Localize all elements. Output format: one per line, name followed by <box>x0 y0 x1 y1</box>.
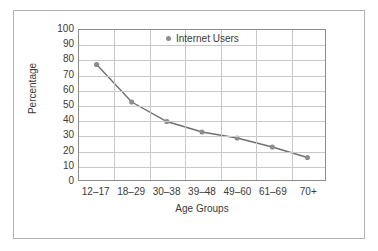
line-chart: 0102030405060708090100 12–1718–2930–3839… <box>14 11 366 240</box>
series-line <box>97 65 308 158</box>
chart-legend: Internet Users <box>166 33 239 44</box>
gridline-horizontal <box>79 121 325 122</box>
data-point-marker <box>199 129 204 134</box>
x-axis-tick-labels: 12–1718–2930–3839–4849–6061–6970+ <box>78 186 326 200</box>
gridline-vertical <box>150 30 151 180</box>
data-point-marker <box>94 62 99 67</box>
gridline-horizontal <box>79 106 325 107</box>
data-point-marker <box>270 144 275 149</box>
data-point-marker <box>129 99 134 104</box>
y-axis-tick-label: 50 <box>63 100 74 110</box>
gridline-vertical <box>256 30 257 180</box>
y-axis-tick-labels: 0102030405060708090100 <box>44 29 74 181</box>
gridline-horizontal <box>79 91 325 92</box>
x-axis-tick-label: 12–17 <box>82 186 110 197</box>
y-axis-tick-label: 30 <box>63 130 74 140</box>
x-axis-tick-label: 18–29 <box>117 186 145 197</box>
legend-dot-icon <box>166 36 171 41</box>
gridline-horizontal <box>79 136 325 137</box>
y-axis-tick-label: 20 <box>63 146 74 156</box>
gridline-vertical <box>221 30 222 180</box>
y-axis-tick-label: 40 <box>63 115 74 125</box>
x-axis-tick-label: 30–38 <box>153 186 181 197</box>
series-internet-users <box>79 30 325 180</box>
x-axis-tick-label: 49–60 <box>224 186 252 197</box>
y-axis-tick-label: 60 <box>63 85 74 95</box>
y-axis-tick-label: 90 <box>63 39 74 49</box>
gridline-horizontal <box>79 152 325 153</box>
gridline-vertical <box>292 30 293 180</box>
gridline-vertical <box>185 30 186 180</box>
gridline-horizontal <box>79 167 325 168</box>
x-axis-tick-label: 39–48 <box>188 186 216 197</box>
legend-entry-label: Internet Users <box>176 33 239 44</box>
x-axis-title: Age Groups <box>78 203 326 214</box>
figure-frame: 0102030405060708090100 12–1718–2930–3839… <box>13 10 365 239</box>
gridline-horizontal <box>79 60 325 61</box>
gridline-horizontal <box>79 76 325 77</box>
x-axis-tick-label: 70+ <box>300 186 317 197</box>
plot-area <box>78 29 326 181</box>
y-axis-tick-label: 10 <box>63 161 74 171</box>
data-point-marker <box>305 155 310 160</box>
gridline-vertical <box>114 30 115 180</box>
x-axis-tick-label: 61–69 <box>259 186 287 197</box>
y-axis-title: Percentage <box>27 44 38 134</box>
y-axis-tick-label: 70 <box>63 70 74 80</box>
gridline-horizontal <box>79 45 325 46</box>
y-axis-tick-label: 0 <box>68 176 74 186</box>
y-axis-tick-label: 100 <box>57 24 74 34</box>
y-axis-tick-label: 80 <box>63 54 74 64</box>
